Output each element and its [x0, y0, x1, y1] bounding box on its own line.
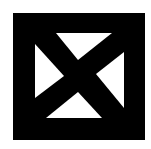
- outer-square: [13, 13, 145, 140]
- box-x-icon-graphic: [0, 0, 151, 149]
- box-x-icon: [0, 0, 151, 149]
